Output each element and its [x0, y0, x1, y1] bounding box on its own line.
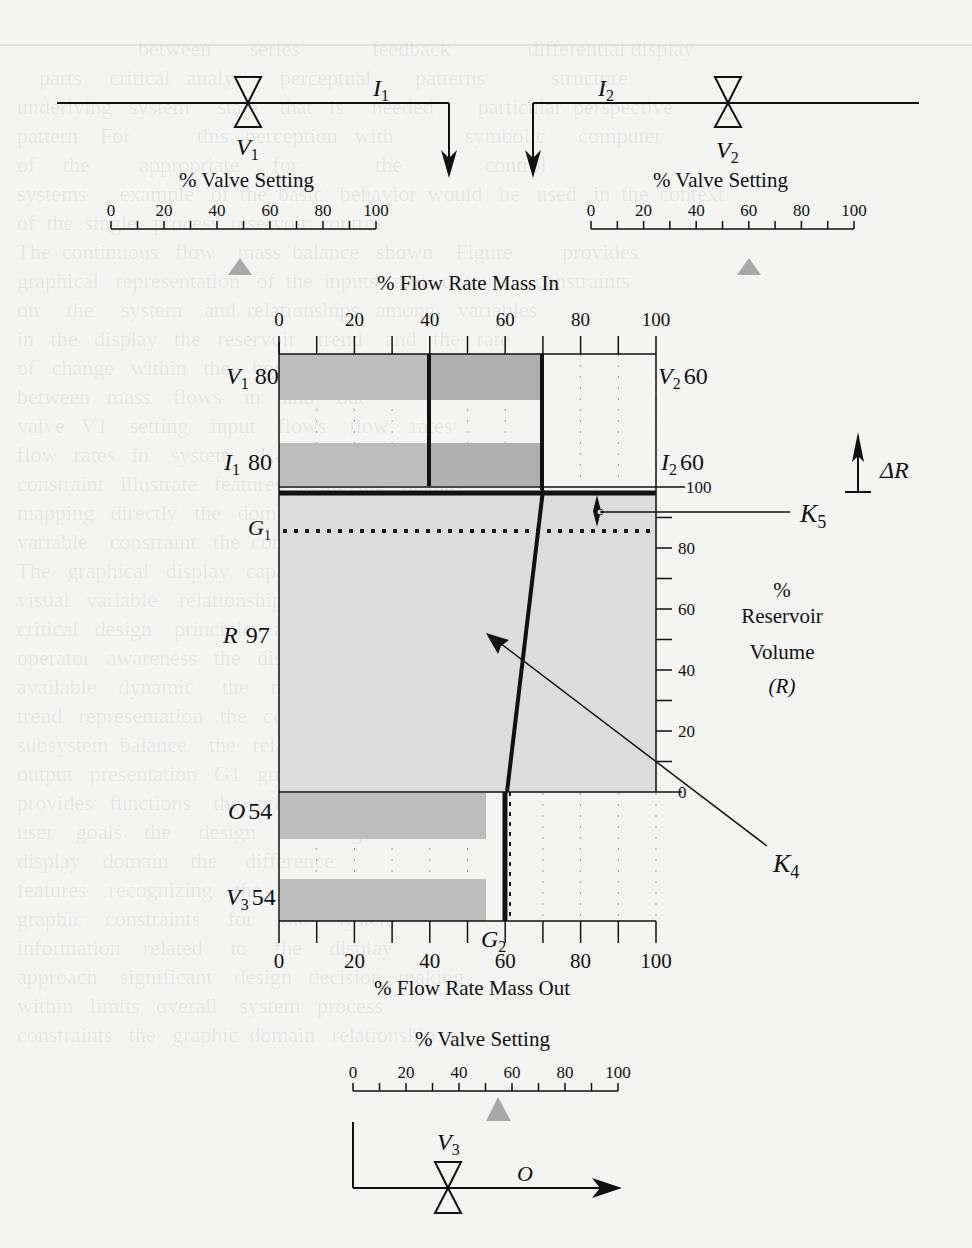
delta-r-label: ΔR — [879, 457, 909, 483]
valve-v1-scale-title: % Valve Setting — [179, 168, 314, 192]
bar-v3-segment — [280, 879, 486, 921]
valve-scale-tick-label: 0 — [587, 201, 596, 220]
reservoir-tick-label: 40 — [678, 661, 695, 680]
valve-scale-tick-label: 20 — [398, 1063, 415, 1082]
bar-i2-segment — [429, 443, 540, 486]
reservoir-tick-label: 60 — [678, 600, 695, 619]
mass-in-axis-title: % Flow Rate Mass In — [377, 271, 559, 295]
mass-in-tick-label: 0 — [274, 309, 284, 330]
mass-out-axis: 020406080100 — [274, 921, 672, 973]
valve-scale-tick-label: 100 — [605, 1063, 631, 1082]
valve-scale-tick-label: 20 — [156, 201, 173, 220]
bar-label-i1: I180 — [223, 449, 272, 478]
valve-scale-tick-label: 0 — [107, 201, 116, 220]
valve-v1-scale[interactable]: 020406080100 — [107, 201, 389, 229]
mass-out-tick-label: 20 — [344, 949, 365, 973]
valve-scale-tick-label: 60 — [262, 201, 279, 220]
valve-v1-setting-indicator-icon[interactable] — [228, 258, 252, 275]
goal-g1-label: G1 — [248, 515, 271, 543]
bar-label-i2: I260 — [660, 449, 704, 478]
reservoir-axis-title-line1: % — [773, 578, 791, 602]
bar-v2-segment — [429, 354, 540, 400]
mass-out-tick-label: 100 — [640, 949, 672, 973]
inflow-1-pipe — [57, 103, 457, 178]
goal-g2-label: G2 — [481, 926, 506, 955]
mass-in-tick-label: 100 — [642, 309, 671, 330]
mass-in-axis: 020406080100 — [274, 309, 670, 354]
outflow-label: O — [517, 1161, 533, 1186]
valve-scale-tick-label: 80 — [793, 201, 810, 220]
bar-label-v2: V260 — [658, 363, 708, 392]
reservoir-volume-area — [279, 494, 656, 792]
reservoir-tick-label: 80 — [678, 539, 695, 558]
reservoir-axis-title-line4: (R) — [769, 674, 796, 698]
k5-label: K5 — [799, 499, 826, 532]
valve-v3-label: V3 — [437, 1129, 460, 1158]
valve-v3-scale[interactable]: 020406080100 — [349, 1063, 631, 1091]
bar-v1-segment — [279, 354, 429, 400]
valve-scale-tick-label: 40 — [209, 201, 226, 220]
reservoir-axis-title-line3: Volume — [750, 640, 815, 664]
bar-label-o: O54 — [228, 798, 272, 824]
mass-out-tick-label: 0 — [274, 949, 285, 973]
reservoir-tick-label: 20 — [678, 722, 695, 741]
reservoir-tick-label: 100 — [686, 478, 712, 497]
bar-i1-segment — [279, 443, 429, 486]
k4-label: K4 — [772, 849, 799, 882]
bar-label-v1: V180 — [226, 363, 279, 392]
inflow-2-label: I2 — [597, 75, 614, 104]
mass-in-tick-label: 40 — [420, 309, 439, 330]
valve-scale-tick-label: 60 — [740, 201, 757, 220]
mass-in-tick-label: 60 — [496, 309, 515, 330]
bar-o-segment — [280, 793, 486, 839]
reservoir-axis-title-line2: Reservoir — [741, 604, 823, 628]
outflow-pipe — [353, 1122, 622, 1198]
valve-scale-tick-label: 40 — [451, 1063, 468, 1082]
valve-scale-tick-label: 80 — [557, 1063, 574, 1082]
valve-scale-tick-label: 0 — [349, 1063, 358, 1082]
valve-scale-tick-label: 100 — [841, 201, 867, 220]
valve-v2-scale[interactable]: 020406080100 — [587, 201, 867, 229]
mass-out-tick-label: 40 — [419, 949, 440, 973]
valve-scale-tick-label: 80 — [315, 201, 332, 220]
delta-r-indicator-icon — [845, 432, 871, 492]
mass-in-tick-label: 80 — [571, 309, 590, 330]
valve-v2-setting-indicator-icon[interactable] — [737, 258, 761, 275]
valve-scale-tick-label: 60 — [504, 1063, 521, 1082]
valve-v2-scale-title: % Valve Setting — [653, 168, 788, 192]
reservoir-axis: 020406080100 — [656, 478, 712, 802]
bar-label-r: R97 — [222, 622, 270, 648]
valve-scale-tick-label: 100 — [363, 201, 389, 220]
valve-v1-label: V1 — [236, 134, 259, 163]
valve-scale-tick-label: 20 — [635, 201, 652, 220]
inflow-1-label: I1 — [372, 75, 389, 104]
mass-in-tick-label: 20 — [345, 309, 364, 330]
mass-out-tick-label: 80 — [570, 949, 591, 973]
valve-scale-tick-label: 40 — [688, 201, 705, 220]
mass-out-axis-title: % Flow Rate Mass Out — [374, 976, 570, 1000]
reservoir-tick-label: 0 — [678, 783, 687, 802]
valve-v3-setting-indicator-icon[interactable] — [486, 1097, 511, 1121]
valve-v2-label: V2 — [716, 137, 739, 166]
valve-v3-scale-title: % Valve Setting — [415, 1027, 550, 1051]
bar-label-v3: V354 — [226, 884, 276, 913]
